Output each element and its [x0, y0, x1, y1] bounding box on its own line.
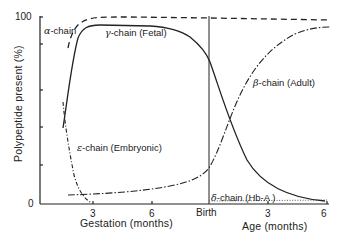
y-tick-0: 0	[28, 198, 34, 209]
x-tick-age-6: 6	[321, 208, 327, 219]
hemoglobin-chain-chart: 100 0 3 6 Birth 3 6 Polypeptide present …	[0, 0, 338, 243]
delta-chain-label: δ-chain (Hb-A )	[211, 192, 275, 203]
y-axis-title: Polypeptide present (%)	[12, 45, 24, 162]
y-tick-100: 100	[15, 11, 32, 22]
x-tick-birth: Birth	[196, 207, 217, 218]
axes	[40, 16, 329, 204]
epsilon-chain-label: ε-chain (Embryonic)	[77, 142, 162, 153]
x-axis-title-age: Age (months)	[242, 220, 307, 232]
x-axis-title-gestation: Gestation (months)	[80, 217, 173, 229]
gamma-chain-label: γ-chain (Fetal)	[105, 27, 167, 38]
alpha-chain-label: α-chain	[44, 25, 76, 36]
beta-chain-label: β-chain (Adult)	[252, 77, 315, 88]
beta-chain-curve	[68, 27, 330, 195]
gamma-chain-curve	[63, 25, 325, 201]
x-tick-age-3: 3	[265, 208, 271, 219]
